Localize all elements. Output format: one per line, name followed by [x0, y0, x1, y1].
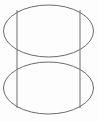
geometric-figure-canvas [0, 0, 99, 122]
figure-container [0, 0, 99, 122]
